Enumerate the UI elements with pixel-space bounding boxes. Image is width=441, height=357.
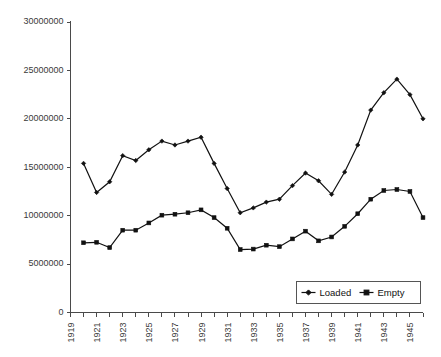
data-point-marker bbox=[330, 235, 334, 239]
data-point-marker bbox=[212, 216, 216, 220]
legend-label: Loaded bbox=[320, 287, 352, 298]
data-point-marker bbox=[108, 246, 112, 250]
data-point-marker bbox=[95, 240, 99, 244]
data-point-marker bbox=[82, 241, 86, 245]
data-point-marker bbox=[160, 213, 164, 217]
y-tick-label: 15000000 bbox=[23, 162, 63, 172]
data-point-marker bbox=[408, 190, 412, 194]
data-point-marker bbox=[291, 237, 295, 241]
data-point-marker bbox=[186, 211, 190, 215]
legend-label: Empty bbox=[378, 287, 405, 298]
x-tick-label: 1923 bbox=[118, 323, 128, 343]
y-tick-label: 30000000 bbox=[23, 16, 63, 26]
data-point-marker bbox=[251, 247, 255, 251]
data-point-marker bbox=[421, 216, 425, 220]
data-point-marker bbox=[382, 189, 386, 193]
data-point-marker bbox=[121, 228, 125, 232]
x-tick-label: 1931 bbox=[223, 323, 233, 343]
y-tick-label: 20000000 bbox=[23, 113, 63, 123]
x-tick-label: 1941 bbox=[353, 323, 363, 343]
chart-legend: LoadedEmpty bbox=[297, 282, 421, 304]
y-tick-label: 0 bbox=[58, 307, 63, 317]
chart-svg: 0500000010000000150000002000000025000000… bbox=[0, 0, 441, 357]
x-tick-label: 1937 bbox=[301, 323, 311, 343]
data-point-marker bbox=[147, 221, 151, 225]
data-point-marker bbox=[356, 212, 360, 216]
data-point-marker bbox=[238, 248, 242, 252]
line-chart: 0500000010000000150000002000000025000000… bbox=[0, 0, 441, 357]
x-tick-label: 1929 bbox=[197, 323, 207, 343]
x-tick-label: 1919 bbox=[66, 323, 76, 343]
data-point-marker bbox=[134, 228, 138, 232]
data-point-marker bbox=[304, 229, 308, 233]
data-point-marker bbox=[395, 188, 399, 192]
legend-marker-square bbox=[364, 290, 369, 295]
y-tick-label: 10000000 bbox=[23, 210, 63, 220]
data-point-marker bbox=[264, 243, 268, 247]
data-point-marker bbox=[173, 212, 177, 216]
data-point-marker bbox=[317, 239, 321, 243]
x-tick-label: 1925 bbox=[144, 323, 154, 343]
x-tick-label: 1943 bbox=[379, 323, 389, 343]
x-tick-label: 1935 bbox=[275, 323, 285, 343]
x-tick-label: 1921 bbox=[92, 323, 102, 343]
y-tick-label: 5000000 bbox=[28, 258, 63, 268]
x-tick-label: 1933 bbox=[249, 323, 259, 343]
data-point-marker bbox=[369, 197, 373, 201]
y-tick-label: 25000000 bbox=[23, 65, 63, 75]
data-point-marker bbox=[343, 224, 347, 228]
x-tick-label: 1927 bbox=[170, 323, 180, 343]
x-tick-label: 1945 bbox=[405, 323, 415, 343]
data-point-marker bbox=[277, 245, 281, 249]
data-point-marker bbox=[199, 208, 203, 212]
x-tick-label: 1939 bbox=[327, 323, 337, 343]
data-point-marker bbox=[225, 226, 229, 230]
